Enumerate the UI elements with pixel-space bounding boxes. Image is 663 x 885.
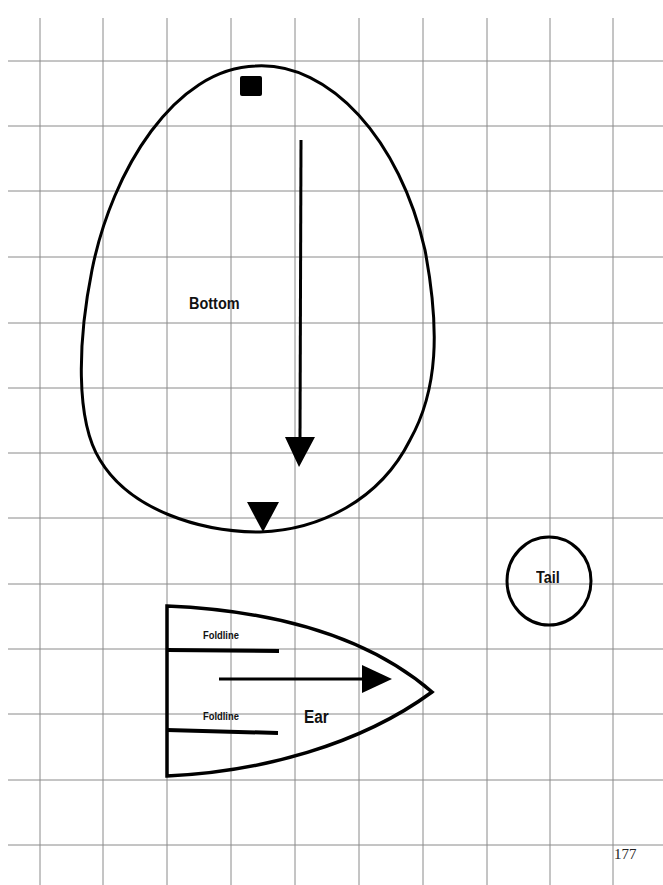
foldline-bottom-label: Foldline <box>203 710 239 722</box>
placement-square-icon <box>240 76 262 96</box>
ear-label: Ear <box>304 707 329 728</box>
notch-triangle-icon <box>247 502 279 532</box>
pattern-page: Bottom Ear Foldline Foldline Tail 177 <box>0 0 663 885</box>
grid <box>8 18 663 885</box>
bottom-label: Bottom <box>189 294 240 314</box>
foldline-bottom <box>167 730 278 733</box>
grainline-arrowhead-icon <box>285 437 315 467</box>
pattern-drawing <box>0 0 663 885</box>
bottom-piece <box>81 66 434 532</box>
page-number: 177 <box>614 846 637 863</box>
grainline-arrowhead-icon <box>362 665 392 693</box>
foldline-top <box>167 650 279 651</box>
foldline-top-label: Foldline <box>203 629 239 641</box>
tail-label: Tail <box>536 568 560 588</box>
grainline-arrow <box>300 140 301 440</box>
